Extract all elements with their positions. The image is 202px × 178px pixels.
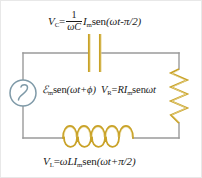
- inductor-symbol: [63, 126, 133, 147]
- vl-symbol: V: [43, 155, 50, 167]
- vc-function: sen: [92, 15, 106, 27]
- fraction-numerator: 1: [66, 10, 82, 20]
- equation-capacitor-voltage: VC=1ωCImsen(ωt-π/2): [48, 10, 141, 32]
- vc-argument: (ωt-π/2): [106, 15, 141, 27]
- vr-argument: ωt: [146, 84, 156, 95]
- capacitor-symbol: [89, 34, 101, 72]
- vr-function: sen: [132, 84, 146, 95]
- vr-coefficient: RI: [117, 84, 127, 95]
- emf-argument: (ωt+ϕ): [67, 84, 96, 95]
- vl-coefficient: ωLI: [60, 155, 77, 167]
- capacitive-reactance-fraction: 1ωC: [66, 10, 82, 32]
- vl-argument: (ωt+π/2): [97, 155, 136, 167]
- ac-source-symbol: [10, 80, 36, 106]
- vl-function: sen: [82, 155, 96, 167]
- fraction-denominator: ωC: [67, 21, 81, 32]
- emf-function: sen: [53, 84, 67, 95]
- vc-symbol: V: [48, 15, 55, 27]
- vc-equals: =: [59, 15, 65, 27]
- circuit-diagram-figure: VC=1ωCImsen(ωt-π/2) ℰmsen(ωt+ϕ) VR=RImse…: [0, 0, 202, 178]
- equation-resistor-voltage: VR=RImsenωt: [101, 85, 156, 96]
- resistor-symbol: [171, 69, 187, 123]
- equation-inductor-voltage: VL=ωLImsen(ωt+π/2): [43, 156, 135, 169]
- equation-source-emf: ℰmsen(ωt+ϕ): [42, 85, 96, 96]
